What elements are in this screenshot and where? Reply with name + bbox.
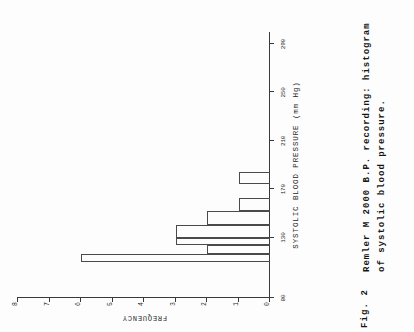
- caption-line: Remler M 2000 B.P. recording: histogram: [360, 22, 375, 272]
- caption-line: of systolic blood pressure.: [375, 22, 390, 272]
- histogram-bar: [176, 225, 271, 237]
- y-tick-label: 1: [232, 302, 239, 312]
- x-tick-mark: [269, 188, 274, 189]
- histogram-chart: 80130170210250290 012345678 SYSTOLIC BLO…: [0, 0, 414, 332]
- y-tick-label: 3: [169, 302, 176, 312]
- histogram-bar: [207, 211, 270, 226]
- plot-area: 80130170210250290 012345678 SYSTOLIC BLO…: [18, 32, 270, 298]
- histogram-bar: [239, 172, 271, 184]
- y-tick-label: 0: [264, 302, 271, 312]
- histogram-bar: [239, 198, 271, 211]
- y-tick-label: 6: [75, 302, 82, 312]
- y-tick-label: 7: [43, 302, 50, 312]
- histogram-bar: [207, 245, 270, 255]
- x-axis-title: SYSTOLIC BLOOD PRESSURE (mm Hg): [292, 32, 300, 298]
- histogram-bar: [81, 254, 270, 261]
- x-tick-label: 130: [280, 232, 287, 242]
- figure-page: 80130170210250290 012345678 SYSTOLIC BLO…: [0, 0, 414, 332]
- x-tick-label: 250: [280, 87, 287, 97]
- x-tick-label: 210: [280, 136, 287, 146]
- x-tick-mark: [269, 91, 274, 92]
- histogram-bar: [176, 238, 271, 245]
- x-tick-mark: [269, 43, 274, 44]
- y-tick-label: 4: [138, 302, 145, 312]
- figure-caption-text: Remler M 2000 B.P. recording: histogramo…: [360, 22, 390, 272]
- y-axis-line: [18, 297, 270, 298]
- y-axis-title: FREQUENCY: [122, 314, 167, 322]
- x-tick-label: 80: [280, 295, 287, 302]
- x-tick-mark: [269, 140, 274, 141]
- figure-number-label: Fig. 2: [360, 289, 370, 328]
- y-tick-label: 2: [201, 302, 208, 312]
- x-tick-label: 170: [280, 184, 287, 194]
- x-tick-label: 290: [280, 39, 287, 49]
- y-tick-label: 5: [106, 302, 113, 312]
- y-tick-label: 8: [12, 302, 19, 312]
